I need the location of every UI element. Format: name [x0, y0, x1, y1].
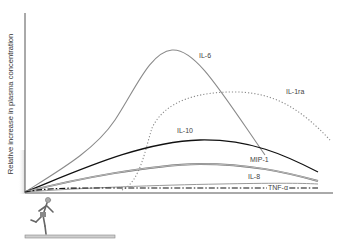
label-il6: IL-6 [199, 52, 211, 59]
label-il8: IL-8 [248, 173, 260, 180]
series-il6-line [25, 50, 265, 192]
label-mip1: MIP-1 [250, 156, 269, 163]
runner-icon [31, 197, 53, 234]
label-il10: IL-10 [177, 127, 193, 134]
cytokine-line-chart [0, 0, 343, 247]
track-bar [25, 235, 115, 238]
y-axis-label-text: Relative increase in plasma concentratio… [6, 34, 15, 175]
label-il1ra: IL-1ra [286, 88, 304, 95]
axis-shadow [18, 150, 25, 194]
label-tnfa: TNF-α [267, 184, 289, 191]
y-axis-label: Relative increase in plasma concentratio… [3, 18, 17, 190]
